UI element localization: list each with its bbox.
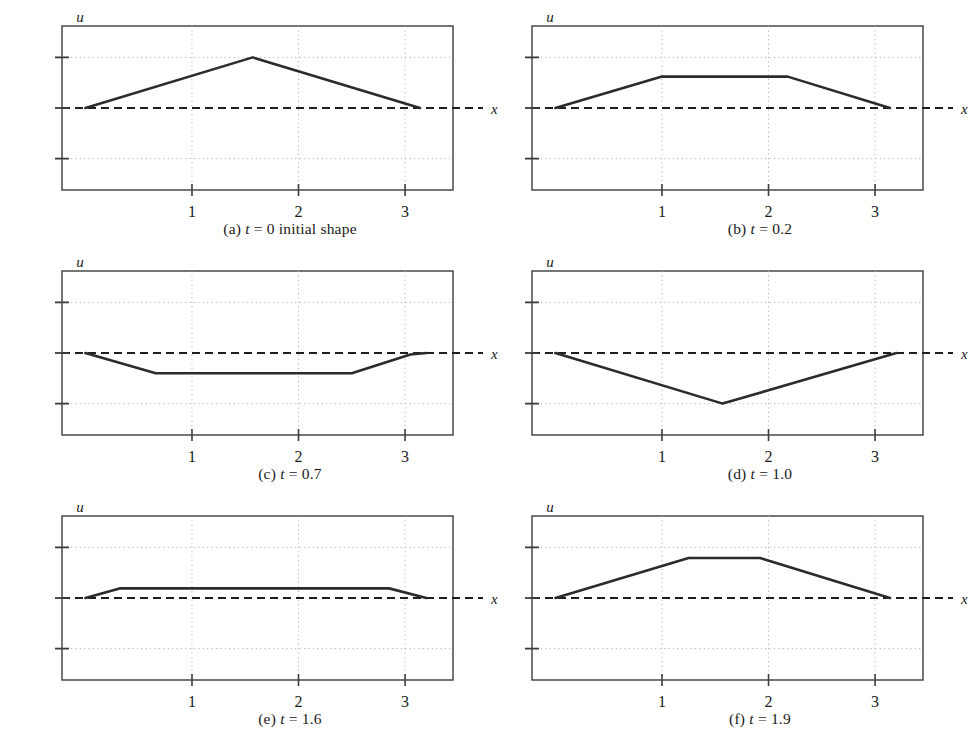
y-axis-label: u (76, 254, 84, 270)
xtick-label-3: 3 (871, 693, 879, 710)
caption-value-f: = 1.9 (758, 710, 791, 727)
xtick-label-2: 2 (295, 203, 303, 220)
xtick-label-3: 3 (401, 448, 409, 465)
caption-prefix-c: (c) (258, 465, 276, 482)
caption-variable-c: t (280, 465, 285, 482)
panel-e: 12310−1ux(e) t = 1.6 (55, 498, 525, 747)
x-axis-label: x (960, 591, 968, 607)
x-axis-label: x (960, 346, 968, 362)
caption-value-e: = 1.6 (289, 710, 322, 727)
xtick-label-1: 1 (188, 693, 196, 710)
x-axis-label: x (490, 346, 498, 362)
xtick-label-1: 1 (658, 693, 666, 710)
caption-b: (b) t = 0.2 (525, 220, 970, 238)
y-axis-label: u (546, 254, 554, 270)
xtick-label-2: 2 (765, 693, 773, 710)
caption-c: (c) t = 0.7 (55, 465, 525, 483)
caption-d: (d) t = 1.0 (525, 465, 970, 483)
caption-prefix-d: (d) (728, 465, 747, 482)
panel-a: 12310−1ux(a) t = 0 initial shape (55, 8, 525, 257)
xtick-label-2: 2 (765, 203, 773, 220)
caption-value-a: = 0 initial shape (254, 220, 357, 237)
wave-evolution-figure: 12310−1ux(a) t = 0 initial shape12310−1u… (0, 0, 970, 747)
panel-c: 12310−1ux(c) t = 0.7 (55, 253, 525, 502)
caption-prefix-f: (f) (729, 710, 745, 727)
panel-d: 12310−1ux(d) t = 1.0 (525, 253, 970, 502)
xtick-label-2: 2 (295, 693, 303, 710)
y-axis-label: u (546, 499, 554, 515)
y-axis-label: u (76, 499, 84, 515)
caption-variable-b: t (751, 220, 756, 237)
y-axis-label: u (546, 9, 554, 25)
y-axis-label: u (76, 9, 84, 25)
caption-variable-f: t (749, 710, 754, 727)
caption-prefix-a: (a) (223, 220, 241, 237)
caption-variable-e: t (280, 710, 285, 727)
caption-a: (a) t = 0 initial shape (55, 220, 525, 238)
caption-variable-d: t (751, 465, 756, 482)
xtick-label-1: 1 (658, 203, 666, 220)
caption-f: (f) t = 1.9 (525, 710, 970, 728)
caption-value-d: = 1.0 (759, 465, 792, 482)
panel-f: 12310−1ux(f) t = 1.9 (525, 498, 970, 747)
xtick-label-2: 2 (295, 448, 303, 465)
x-axis-label: x (490, 591, 498, 607)
xtick-label-1: 1 (658, 448, 666, 465)
caption-value-c: = 0.7 (289, 465, 322, 482)
x-axis-label: x (490, 101, 498, 117)
xtick-label-1: 1 (188, 203, 196, 220)
xtick-label-3: 3 (871, 203, 879, 220)
panel-b: 12310−1ux(b) t = 0.2 (525, 8, 970, 257)
xtick-label-3: 3 (871, 448, 879, 465)
xtick-label-2: 2 (765, 448, 773, 465)
caption-prefix-e: (e) (258, 710, 276, 727)
xtick-label-3: 3 (401, 693, 409, 710)
xtick-label-1: 1 (188, 448, 196, 465)
caption-e: (e) t = 1.6 (55, 710, 525, 728)
caption-variable-a: t (245, 220, 250, 237)
caption-value-b: = 0.2 (759, 220, 792, 237)
caption-prefix-b: (b) (728, 220, 747, 237)
x-axis-label: x (960, 101, 968, 117)
xtick-label-3: 3 (401, 203, 409, 220)
